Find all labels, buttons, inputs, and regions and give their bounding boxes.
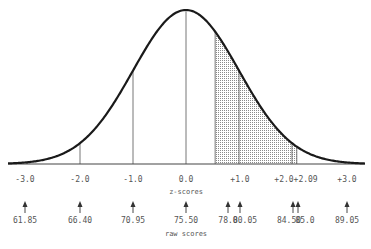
up-arrow-icon: [345, 201, 350, 213]
raw-label: 61.85: [13, 216, 37, 226]
up-arrow-icon: [238, 201, 243, 213]
z-scores-caption: z-scores: [169, 188, 203, 197]
raw-label: 66.40: [68, 216, 92, 226]
raw-label: 80.05: [233, 216, 257, 226]
up-arrow-icon: [226, 201, 231, 213]
z-gridlines: [27, 10, 345, 164]
z-label: -2.0: [70, 175, 89, 185]
up-arrow-icon: [78, 201, 83, 213]
raw-score-arrows: [23, 201, 350, 213]
raw-label: 85.0: [295, 216, 314, 226]
normal-curve: [8, 10, 365, 163]
z-label: -3.0: [15, 175, 34, 185]
raw-label: 75.50: [174, 216, 198, 226]
up-arrow-icon: [296, 201, 301, 213]
z-label: 0.0: [179, 175, 193, 185]
normal-distribution-diagram: [0, 0, 371, 249]
raw-scores-caption: raw scores: [165, 230, 207, 239]
z-label: +2.0+2.09: [274, 175, 317, 185]
raw-label: 89.05: [335, 216, 359, 226]
up-arrow-icon: [184, 201, 189, 213]
up-arrow-icon: [23, 201, 28, 213]
z-label: -1.0: [123, 175, 142, 185]
z-label: +1.0: [230, 175, 249, 185]
raw-label: 70.95: [121, 216, 145, 226]
z-label: +3.0: [337, 175, 356, 185]
up-arrow-icon: [131, 201, 136, 213]
up-arrow-icon: [291, 201, 296, 213]
